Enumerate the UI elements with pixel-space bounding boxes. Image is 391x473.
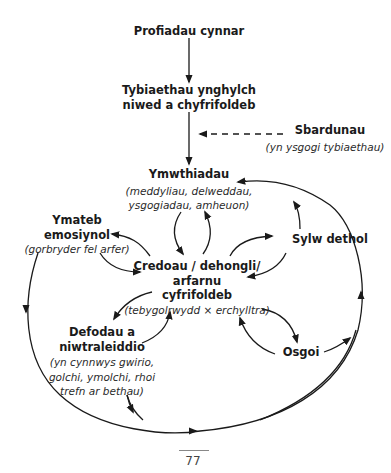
node-rituals: Defodau a niwtraleiddio (yn cynnwys gwir…: [49, 325, 155, 399]
selective-attention-title: Sylw dethol: [292, 232, 368, 246]
node-intrusions: Ymwthiadau (meddyliau, delweddau, ysgogi…: [126, 167, 253, 213]
rituals-line1: Defodau a: [49, 325, 155, 340]
early-experiences-title: Profiadau cynnar: [134, 24, 245, 38]
rituals-line2: niwtraleiddio: [49, 340, 155, 355]
beliefs-line2: arfarnu: [124, 274, 270, 289]
footer-rule: [179, 450, 209, 451]
triggers-subtitle: (yn ysgogi tybiaethau): [266, 140, 385, 155]
intrusions-sub2: ysgogiadau, amheuon): [126, 198, 253, 213]
node-avoidance: Osgoi: [283, 345, 320, 360]
rituals-sub2: golchi, ymolchi, rhoi: [49, 370, 155, 385]
intrusions-sub1: (meddyliau, delweddau,: [126, 184, 253, 199]
beliefs-subtitle: (tebygolrwydd × erchylltra): [124, 303, 270, 318]
emotional-response-line1: Ymateb: [24, 213, 129, 228]
node-assumptions: Tybiaethau ynghylch niwed a chyfrifoldeb: [122, 83, 256, 112]
assumptions-line2: niwed a chyfrifoldeb: [122, 98, 256, 113]
page-number: 77: [185, 454, 200, 468]
triggers-title: Sbardunau: [276, 123, 385, 138]
arrow-attention-to-loop: [294, 202, 300, 229]
arrow-avoidance-to-loop: [324, 338, 350, 352]
rituals-sub1: (yn cynnwys gwirio,: [49, 355, 155, 370]
node-early-experiences: Profiadau cynnar: [134, 24, 245, 39]
arrow-beliefs-to-intrusions: [203, 212, 210, 254]
beliefs-line3: cyfrifoldeb: [124, 288, 270, 303]
beliefs-line1: Credoau / dehongli/: [124, 259, 270, 274]
node-triggers: Sbardunau (yn ysgogi tybiaethau): [266, 123, 385, 154]
rituals-sub3: trefn ar bethau): [49, 384, 155, 399]
arrow-beliefs-to-attention: [230, 236, 272, 256]
node-beliefs: Credoau / dehongli/ arfarnu cyfrifoldeb …: [124, 259, 270, 317]
node-selective-attention: Sylw dethol: [292, 232, 368, 247]
intrusions-title: Ymwthiadau: [126, 167, 253, 182]
avoidance-title: Osgoi: [283, 345, 320, 359]
emotional-response-subtitle: (gorbryder fel arfer): [24, 242, 129, 257]
arrow-avoidance-to-beliefs: [240, 318, 275, 354]
node-emotional-response: Ymateb emosiynol (gorbryder fel arfer): [24, 213, 129, 257]
assumptions-line1: Tybiaethau ynghylch: [122, 83, 256, 98]
arrow-rituals-to-loop: [127, 395, 143, 420]
arrow-intrusions-to-beliefs: [174, 212, 183, 254]
emotional-response-line2: emosiynol: [24, 228, 129, 243]
